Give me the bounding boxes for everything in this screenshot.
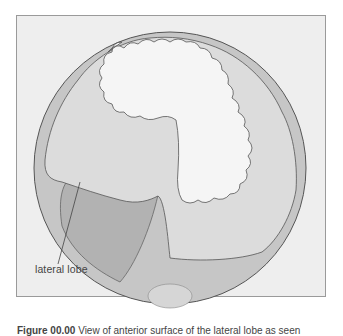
caption-number: Figure 00.00 <box>17 325 75 336</box>
lateral-lobe-label: lateral lobe <box>35 263 88 275</box>
figure-caption: Figure 00.00 View of anterior surface of… <box>17 325 300 336</box>
caption-text: View of anterior surface of the lateral … <box>78 325 300 336</box>
bottom-oval <box>148 284 192 308</box>
